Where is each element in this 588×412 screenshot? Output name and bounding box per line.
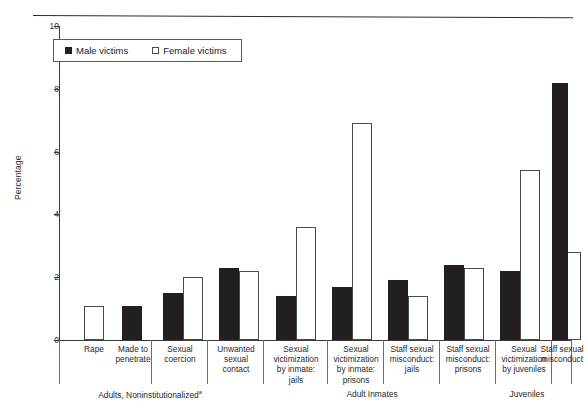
- category-label-sexual-coercion: Sexual coercion: [152, 344, 208, 364]
- category-label-inmate-jails: Sexual victimization by inmate: jails: [265, 344, 327, 385]
- bar-unwanted-contact-male: [219, 268, 239, 340]
- supergroup-label-adults-noninstitutionalized: Adults, Noninstitutionalizeda: [98, 389, 202, 400]
- bar-staff-prisons-male: [444, 265, 464, 340]
- category-label-inmate-prisons: Sexual victimization by inmate: prisons: [325, 344, 387, 385]
- y-axis-line: [59, 26, 60, 340]
- category-label-staff-misconduct: Staff sexual misconduct: [533, 344, 588, 364]
- supergroup-text: Adults, Noninstitutionalized: [98, 390, 199, 400]
- chart-legend: Male victims Female victims: [53, 39, 242, 62]
- legend-swatch-male-icon: [65, 47, 72, 54]
- bar-inmate-prisons-male: [332, 287, 352, 340]
- bar-inmate-jails-male: [276, 296, 296, 340]
- bar-staff-misconduct-juveniles-male: [552, 83, 568, 341]
- bar-rape-female: [84, 306, 104, 341]
- bar-by-juveniles-male: [500, 271, 520, 340]
- legend-item-male: Male victims: [65, 45, 128, 56]
- bar-inmate-jails-female: [296, 227, 316, 340]
- category-label-staff-prisons: Staff sexual misconduct: prisons: [438, 344, 498, 375]
- y-tick-label-8: 8: [54, 84, 59, 94]
- legend-label-male: Male victims: [76, 45, 128, 56]
- bar-staff-jails-female: [408, 296, 428, 340]
- plot-area: 10 8 6 4 2 0 1.1 1.1 1.5 2.0 2.3 2.2 1.4…: [59, 26, 571, 340]
- y-tick-label-10: 10: [50, 21, 59, 31]
- bar-unwanted-contact-female: [239, 271, 259, 340]
- header-rule: [33, 15, 573, 18]
- bar-sexual-coercion-male: [163, 293, 183, 340]
- footnote-marker-a: a: [199, 389, 202, 395]
- category-label-staff-jails: Staff sexual misconduct: jails: [382, 344, 442, 375]
- supergroup-label-juveniles: Juveniles: [510, 389, 545, 399]
- supergroup-label-adult-inmates: Adult Inmates: [346, 389, 397, 399]
- y-tick-label-2: 2: [54, 272, 59, 282]
- bar-staff-jails-male: [388, 280, 408, 340]
- bar-by-juveniles-female: [520, 170, 540, 340]
- legend-item-female: Female victims: [152, 45, 226, 56]
- bar-inmate-prisons-female: [352, 123, 372, 340]
- category-separator-0: [59, 340, 60, 384]
- bar-made-to-penetrate-male: [122, 306, 142, 341]
- bar-sexual-coercion-female: [183, 277, 203, 340]
- y-axis-title: Percentage: [13, 156, 23, 200]
- bar-staff-prisons-female: [464, 268, 484, 340]
- category-label-unwanted-contact: Unwanted sexual contact: [208, 344, 264, 375]
- legend-label-female: Female victims: [163, 45, 226, 56]
- y-tick-label-6: 6: [54, 147, 59, 157]
- legend-swatch-female-icon: [152, 47, 159, 54]
- y-tick-label-4: 4: [54, 209, 59, 219]
